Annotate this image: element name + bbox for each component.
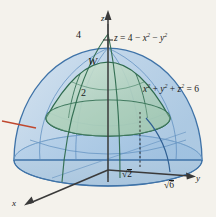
figure-canvas bbox=[0, 0, 216, 217]
sphere-equation-label: x2 + y2 + z2 = 6 bbox=[143, 84, 199, 95]
sphere-rhs-value: 6 bbox=[194, 84, 199, 94]
sqrt6-radicand: 6 bbox=[169, 180, 174, 190]
sqrt2-radicand: 2 bbox=[127, 169, 132, 179]
axis-x-label: x bbox=[12, 199, 16, 208]
region-label-w: W bbox=[88, 56, 97, 67]
tick-label-z-4: 4 bbox=[76, 30, 81, 40]
axis-y-label: y bbox=[196, 174, 200, 183]
tick-label-sqrt6: √6 bbox=[164, 180, 174, 190]
tick-label-z-2: 2 bbox=[81, 88, 86, 98]
paraboloid-equation-label: z = 4 − x2 − y2 bbox=[114, 33, 167, 44]
axis-z-label: z bbox=[101, 14, 105, 23]
tick-label-sqrt2: √2 bbox=[122, 169, 132, 179]
